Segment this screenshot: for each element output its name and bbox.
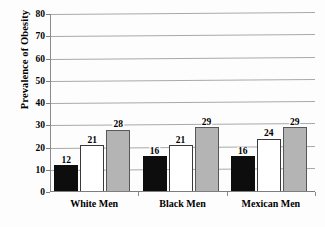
gridline <box>50 12 315 15</box>
x-axis-line <box>50 191 315 192</box>
category-label: White Men <box>70 198 118 209</box>
y-tick-label: 20 <box>36 143 46 153</box>
y-tick-label: 50 <box>36 76 46 86</box>
y-tick-label: 40 <box>36 98 46 108</box>
bar-value-label: 16 <box>237 147 249 157</box>
gridline <box>50 101 315 104</box>
y-axis-title: Prevalence of Obesity <box>19 0 30 140</box>
x-tick-mark <box>315 192 316 196</box>
bar: 29 <box>283 127 307 192</box>
category-label: Mexican Men <box>242 198 301 209</box>
plot-area: 01020304050607080 122128162129162429 <box>50 14 315 192</box>
bar-value-label: 24 <box>263 129 275 139</box>
bar: 16 <box>231 156 255 192</box>
bar-chart: Prevalence of Obesity 01020304050607080 … <box>0 0 325 227</box>
y-axis-line <box>50 14 51 192</box>
y-tick-mark <box>46 192 50 193</box>
bar: 21 <box>80 145 104 192</box>
y-tick-label: 30 <box>36 120 46 130</box>
y-tick-label: 80 <box>36 9 46 19</box>
category-label: Black Men <box>159 198 205 209</box>
gridline <box>50 56 315 59</box>
bar: 28 <box>106 130 130 192</box>
bar: 12 <box>54 165 78 192</box>
bar-value-label: 29 <box>289 118 301 128</box>
bar-value-label: 16 <box>149 147 161 157</box>
bar: 21 <box>169 145 193 192</box>
bar-value-label: 12 <box>60 156 72 166</box>
x-tick-mark <box>138 192 139 196</box>
bar: 29 <box>195 127 219 192</box>
bar-value-label: 21 <box>175 136 187 146</box>
bar-value-label: 21 <box>86 136 98 146</box>
bar: 24 <box>257 139 281 192</box>
bar-value-label: 29 <box>201 118 213 128</box>
gridline <box>50 79 315 82</box>
y-tick-label: 60 <box>36 54 46 64</box>
y-tick-label: 0 <box>40 187 45 197</box>
y-tick-label: 10 <box>36 165 46 175</box>
bar-value-label: 28 <box>112 120 124 130</box>
gridline <box>50 123 315 126</box>
y-tick-label: 70 <box>36 31 46 41</box>
x-tick-mark <box>227 192 228 196</box>
bar: 16 <box>143 156 167 192</box>
gridline <box>50 34 315 37</box>
